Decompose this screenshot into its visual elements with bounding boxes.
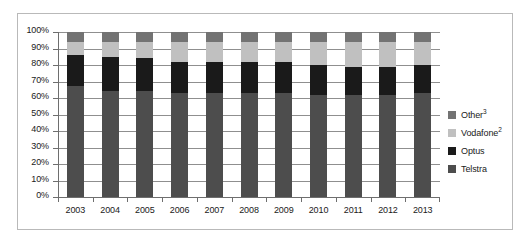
y-axis-line <box>58 32 59 198</box>
bar-slot <box>266 32 301 197</box>
bar-segment-vodafone[interactable] <box>414 42 431 65</box>
bar-segment-telstra[interactable] <box>67 86 84 197</box>
bar-slot <box>197 32 232 197</box>
bar-segment-optus[interactable] <box>241 62 258 93</box>
x-axis-tick: 2006 <box>162 197 197 219</box>
bar-segment-vodafone[interactable] <box>171 42 188 62</box>
bar-segment-other[interactable] <box>171 32 188 42</box>
bar-slot <box>232 32 267 197</box>
x-axis-tick-mark <box>58 197 59 202</box>
bar-segment-telstra[interactable] <box>310 95 327 197</box>
x-axis-tick-label: 2007 <box>197 205 232 215</box>
bar-segment-other[interactable] <box>379 32 396 42</box>
y-axis-tick-label: 100% <box>26 25 49 35</box>
bar-segment-telstra[interactable] <box>171 93 188 197</box>
x-axis-tick-label: 2011 <box>336 205 371 215</box>
y-axis-tick-label: 50% <box>31 108 49 118</box>
bar-segment-optus[interactable] <box>102 57 119 92</box>
bar-segment-optus[interactable] <box>414 65 431 93</box>
bar-segment-other[interactable] <box>310 32 327 42</box>
bar-segment-optus[interactable] <box>136 58 153 91</box>
stacked-bar[interactable] <box>275 32 292 197</box>
stacked-bar[interactable] <box>206 32 223 197</box>
x-axis-tick: 2008 <box>232 197 267 219</box>
bar-segment-optus[interactable] <box>379 67 396 95</box>
bar-segment-vodafone[interactable] <box>102 42 119 57</box>
x-axis-tick-mark <box>301 197 302 202</box>
bar-segment-telstra[interactable] <box>414 93 431 197</box>
stacked-bar[interactable] <box>102 32 119 197</box>
bar-segment-vodafone[interactable] <box>67 42 84 55</box>
legend-item-other[interactable]: Other3 <box>448 106 522 124</box>
chart-figure: 100%90%80%70%60%50%40%30%20%10%0% 200320… <box>0 0 529 244</box>
y-axis-tick-mark <box>53 49 58 50</box>
bar-segment-optus[interactable] <box>310 65 327 95</box>
bar-segment-telstra[interactable] <box>102 91 119 197</box>
bar-segment-other[interactable] <box>275 32 292 42</box>
bar-segment-optus[interactable] <box>345 67 362 95</box>
y-axis-tick-label: 80% <box>31 58 49 68</box>
legend-label-superscript: 2 <box>498 126 502 133</box>
y-axis-tick-label: 90% <box>31 42 49 52</box>
bar-slot <box>405 32 440 197</box>
legend-swatch-vodafone <box>448 129 456 137</box>
x-axis-tick-mark <box>127 197 128 202</box>
legend-item-optus[interactable]: Optus <box>448 142 522 160</box>
bar-segment-vodafone[interactable] <box>206 42 223 62</box>
stacked-bar[interactable] <box>414 32 431 197</box>
bar-segment-optus[interactable] <box>67 55 84 86</box>
legend-item-vodafone[interactable]: Vodafone2 <box>448 124 522 142</box>
x-axis-tick-mark <box>439 197 440 202</box>
bar-segment-other[interactable] <box>67 32 84 42</box>
bar-segment-other[interactable] <box>102 32 119 42</box>
bar-segment-vodafone[interactable] <box>379 42 396 67</box>
bar-segment-vodafone[interactable] <box>136 42 153 59</box>
x-axis-tick-label: 2005 <box>127 205 162 215</box>
legend-label: Telstra <box>461 164 487 174</box>
plot-area <box>58 32 440 197</box>
bar-segment-telstra[interactable] <box>345 95 362 197</box>
bar-segment-vodafone[interactable] <box>275 42 292 62</box>
bar-segment-other[interactable] <box>345 32 362 42</box>
bar-group <box>58 32 440 197</box>
x-axis-tick: 2004 <box>93 197 128 219</box>
y-axis-tick-label: 0% <box>36 190 49 200</box>
bar-segment-telstra[interactable] <box>275 93 292 197</box>
bar-segment-vodafone[interactable] <box>345 42 362 67</box>
bar-segment-other[interactable] <box>136 32 153 42</box>
x-axis-tick-mark <box>197 197 198 202</box>
y-axis-tick-label: 70% <box>31 75 49 85</box>
bar-slot <box>162 32 197 197</box>
bar-segment-telstra[interactable] <box>241 93 258 197</box>
bar-segment-vodafone[interactable] <box>310 42 327 65</box>
bar-segment-other[interactable] <box>241 32 258 42</box>
bar-segment-telstra[interactable] <box>136 91 153 197</box>
stacked-bar[interactable] <box>241 32 258 197</box>
stacked-bar[interactable] <box>136 32 153 197</box>
bar-segment-telstra[interactable] <box>206 93 223 197</box>
y-axis-tick-mark <box>53 115 58 116</box>
x-axis-tick-mark <box>405 197 406 202</box>
stacked-bar[interactable] <box>67 32 84 197</box>
x-axis-tick-label: 2009 <box>266 205 301 215</box>
x-axis-tick-mark <box>93 197 94 202</box>
y-axis-tick-label: 40% <box>31 124 49 134</box>
x-axis-tick-label: 2013 <box>405 205 440 215</box>
stacked-bar[interactable] <box>379 32 396 197</box>
legend-item-telstra[interactable]: Telstra <box>448 160 522 178</box>
bar-segment-other[interactable] <box>206 32 223 42</box>
y-axis-tick-label: 30% <box>31 141 49 151</box>
bar-segment-optus[interactable] <box>275 62 292 93</box>
bar-segment-vodafone[interactable] <box>241 42 258 62</box>
stacked-bar[interactable] <box>171 32 188 197</box>
bar-segment-optus[interactable] <box>171 62 188 93</box>
stacked-bar[interactable] <box>345 32 362 197</box>
bar-segment-optus[interactable] <box>206 62 223 93</box>
bar-segment-telstra[interactable] <box>379 95 396 197</box>
stacked-bar[interactable] <box>310 32 327 197</box>
x-axis-tick-mark <box>266 197 267 202</box>
x-axis-tick-mark <box>336 197 337 202</box>
legend-swatch-optus <box>448 147 456 155</box>
x-axis-ticks: 2003200420052006200720082009201020112012… <box>58 197 440 219</box>
bar-segment-other[interactable] <box>414 32 431 42</box>
